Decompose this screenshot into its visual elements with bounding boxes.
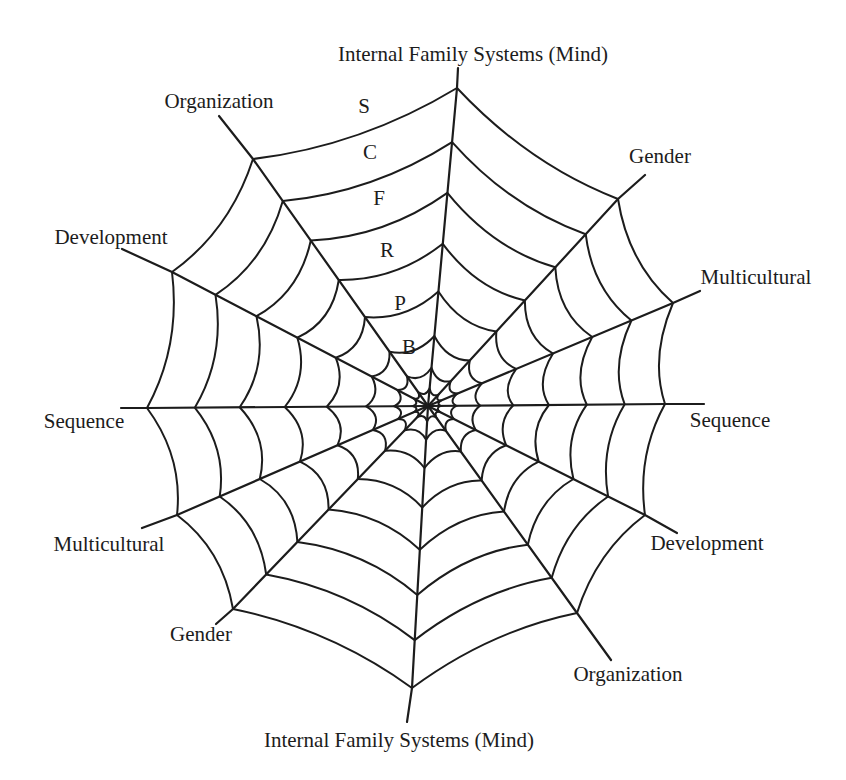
- axis-label-development-upper-left: Development: [54, 225, 167, 249]
- axis-label-gender-lower-left: Gender: [170, 622, 232, 646]
- axis-label-organization-lower-right: Organization: [573, 662, 683, 686]
- spoke-sequence-right: [428, 404, 704, 406]
- spoke-ifs-bottom: [407, 406, 428, 722]
- ring-letter-P: P: [394, 291, 406, 315]
- spider-web-diagram: Internal Family Systems (Mind)GenderMult…: [0, 0, 846, 780]
- spoke-multicultural-lower-left: [142, 406, 428, 528]
- axis-label-development-lower-right: Development: [650, 531, 763, 555]
- ring-letter-B: B: [402, 335, 416, 359]
- web-ring-2: [195, 142, 632, 640]
- web-ring-5: [327, 292, 516, 508]
- spoke-organization-upper-left: [219, 116, 428, 406]
- axis-label-ifs-bottom: Internal Family Systems (Mind): [264, 728, 534, 752]
- spoke-development-upper-left: [122, 249, 428, 406]
- axis-label-sequence-right: Sequence: [690, 408, 770, 432]
- ring-letter-F: F: [373, 186, 385, 210]
- ring-letter-C: C: [363, 140, 377, 164]
- axis-label-multicultural-right: Multicultural: [701, 265, 812, 289]
- spoke-sequence-left: [121, 406, 428, 408]
- spoke-ifs-top: [428, 68, 458, 406]
- spoke-organization-lower-right: [428, 406, 611, 660]
- spoke-gender-upper-right: [428, 175, 645, 406]
- figure-canvas: Internal Family Systems (Mind)GenderMult…: [0, 0, 846, 780]
- spoke-development-lower-right: [428, 406, 677, 533]
- axis-label-multicultural-lower-left: Multicultural: [54, 532, 165, 556]
- ring-letter-R: R: [380, 238, 394, 262]
- axis-label-sequence-left: Sequence: [44, 409, 124, 433]
- spoke-gender-lower-left: [216, 406, 428, 624]
- axis-label-ifs-top: Internal Family Systems (Mind): [338, 42, 608, 66]
- ring-letter-S: S: [358, 94, 370, 118]
- axis-label-gender-upper-right: Gender: [629, 144, 691, 168]
- web-ring-1: [147, 88, 673, 688]
- axis-label-organization-upper-left: Organization: [164, 89, 274, 113]
